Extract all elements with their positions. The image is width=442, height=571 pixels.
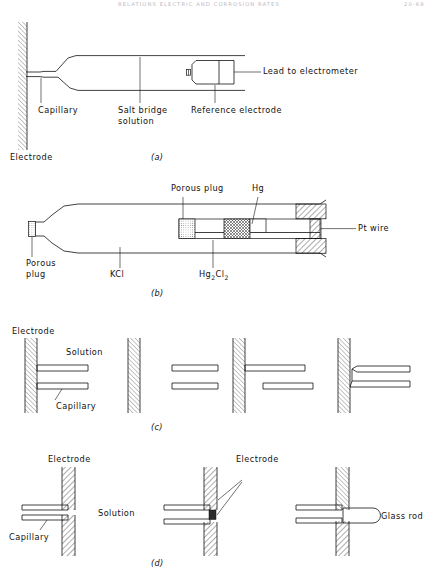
caption-d: (d) bbox=[151, 558, 164, 568]
panel-d-variant-2 bbox=[164, 467, 217, 556]
label-glass-rod-d: Glass rod bbox=[381, 511, 423, 521]
panel-d-variant-1 bbox=[22, 467, 75, 556]
leader-capillary-d bbox=[40, 520, 47, 530]
glass-rod-shape bbox=[343, 508, 381, 523]
label-solution-d: Solution bbox=[98, 508, 135, 518]
label-electrode-d-mid: Electrode bbox=[236, 454, 279, 464]
panel-d: Electrode Electrode Solution Capillary G… bbox=[0, 0, 442, 571]
label-electrode-d-left: Electrode bbox=[48, 454, 91, 464]
leader-electrode-mid-d-2 bbox=[217, 482, 242, 515]
label-capillary-d: Capillary bbox=[9, 532, 49, 542]
electrode-chip-d bbox=[209, 510, 216, 520]
panel-d-variant-3 bbox=[296, 467, 381, 556]
figure-page: RELATIONS ELECTRIC AND CORROSION RATES 2… bbox=[0, 0, 442, 571]
leader-electrode-mid-d-1 bbox=[218, 480, 242, 500]
